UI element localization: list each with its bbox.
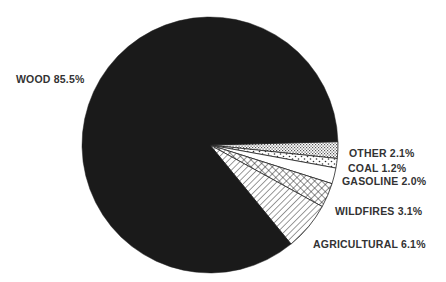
pie-slices: [82, 17, 338, 273]
label-other: OTHER 2.1%: [349, 147, 415, 159]
pie-chart: OTHER 2.1%COAL 1.2%GASOLINE 2.0%WILDFIRE…: [0, 0, 446, 282]
label-coal: COAL 1.2%: [348, 162, 407, 174]
label-wood: WOOD 85.5%: [16, 73, 85, 85]
label-agricultural: AGRICULTURAL 6.1%: [313, 238, 426, 250]
label-gasoline: GASOLINE 2.0%: [342, 175, 427, 187]
label-wildfires: WILDFIRES 3.1%: [335, 205, 423, 217]
